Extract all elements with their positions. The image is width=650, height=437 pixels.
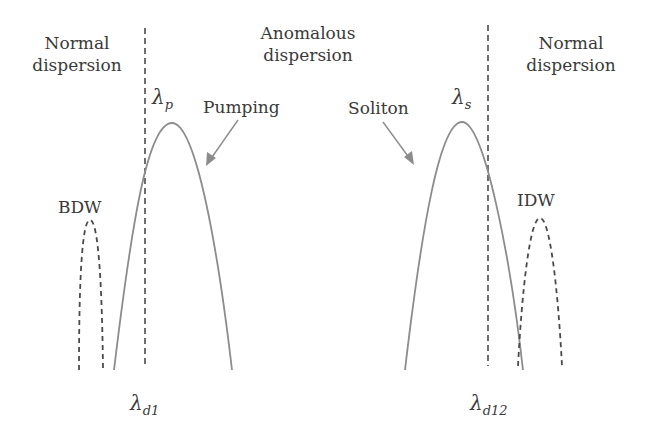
middle-region-line2: dispersion [238,44,378,66]
right-region-line1: Normal [508,32,634,54]
lambda-symbol: λ [130,391,143,415]
d12-subscript: d12 [483,403,508,418]
right-normal-dispersion-label: Normal dispersion [508,32,634,76]
bdw-dashed-curve [79,220,103,370]
soliton-arrow [383,122,414,165]
soliton-label: Soliton [348,97,409,119]
lambda-symbol: λ [452,85,465,109]
pump-subscript: p [165,97,173,112]
soliton-wavelength-label: λs [452,86,471,111]
left-normal-dispersion-label: Normal dispersion [14,32,140,76]
left-region-line2: dispersion [14,54,140,76]
anomalous-dispersion-label: Anomalous dispersion [238,22,378,66]
soliton-subscript: s [465,97,472,112]
dispersion-diagram: Normal dispersion Anomalous dispersion N… [0,0,650,437]
right-region-line2: dispersion [508,54,634,76]
bdw-label: BDW [58,196,102,218]
lambda-symbol: λ [470,391,483,415]
pumping-arrow [206,120,238,166]
left-region-line1: Normal [14,32,140,54]
d1-subscript: d1 [143,403,160,418]
idw-dashed-curve [518,218,562,366]
pump-pulse-curve [114,123,232,370]
pump-wavelength-label: λp [152,86,173,111]
idw-label: IDW [517,189,555,211]
soliton-pulse-curve [405,122,523,370]
pumping-label: Pumping [203,96,280,118]
lambda-d12-label: λd12 [470,392,508,417]
middle-region-line1: Anomalous [238,22,378,44]
lambda-symbol: λ [152,85,165,109]
lambda-d1-label: λd1 [130,392,159,417]
